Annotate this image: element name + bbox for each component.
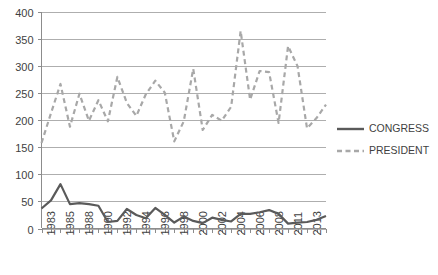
y-axis-tick-label: 150 <box>15 142 33 154</box>
y-axis-tick-label: 200 <box>15 115 33 127</box>
x-axis-tick-label: 1983 <box>45 211 57 235</box>
x-axis-tick-label: 2006 <box>254 211 266 235</box>
y-axis-tick-label: 50 <box>21 196 33 208</box>
y-axis-tick-label: 400 <box>15 7 33 19</box>
legend-label-president: PRESIDENT <box>369 144 430 156</box>
chart-container: 050100150200250300350400 198319851988199… <box>0 0 438 275</box>
y-axis-tick-label: 300 <box>15 61 33 73</box>
x-axis-tick-label: 2013 <box>311 211 323 235</box>
y-axis-tick-label: 250 <box>15 88 33 100</box>
legend-label-congress: CONGRESS <box>369 122 429 134</box>
x-axis-tick-label: 1985 <box>64 211 76 235</box>
y-axis-tick-label: 0 <box>27 224 33 236</box>
x-axis-tick-label: 1998 <box>178 211 190 235</box>
line-chart: 050100150200250300350400 198319851988199… <box>0 0 438 275</box>
x-axis-tick-label: 1988 <box>83 211 95 235</box>
x-axis-tick-label: 2002 <box>216 211 228 235</box>
y-axis-tick-label: 100 <box>15 169 33 181</box>
y-axis-tick-label: 350 <box>15 34 33 46</box>
